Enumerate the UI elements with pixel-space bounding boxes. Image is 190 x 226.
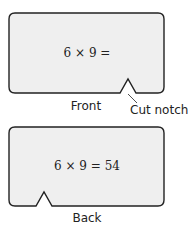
front-card: 6 × 9 = Front Cut notch xyxy=(9,13,188,117)
back-caption: Back xyxy=(72,211,101,225)
notch-pointer-line xyxy=(128,94,137,103)
notch-label: Cut notch xyxy=(130,103,188,117)
back-card: 6 × 9 = 54 Back xyxy=(9,127,164,225)
back-equation: 6 × 9 = 54 xyxy=(54,159,120,173)
flashcard-diagram: 6 × 9 = Front Cut notch 6 × 9 = 54 Back xyxy=(0,0,190,226)
front-equation: 6 × 9 = xyxy=(64,46,111,60)
front-caption: Front xyxy=(71,99,102,113)
